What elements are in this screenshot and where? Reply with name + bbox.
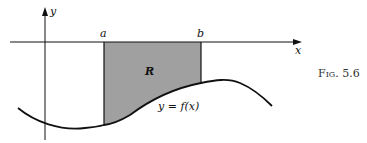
bound-a-label: a [100,27,107,40]
y-axis-label: y [49,5,57,18]
x-axis-label: x [295,44,302,57]
area-diagram: y x a b R y = f(x) Fig. 5.6 [0,0,367,143]
region-label: R [144,65,154,78]
y-axis-arrow-icon [42,7,48,16]
curve-label: y = f(x) [157,100,199,113]
figure-caption: Fig. 5.6 [318,67,360,80]
bound-b-label: b [197,27,204,40]
